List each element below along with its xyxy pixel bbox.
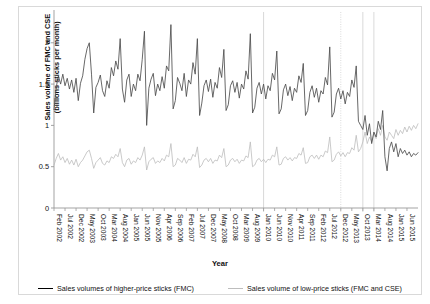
x-tick-label: Dec 2012 bbox=[342, 214, 349, 243]
x-tick-label: Oct 2003 bbox=[100, 214, 107, 241]
x-tick-label: Jul 2012 bbox=[331, 214, 338, 239]
legend-label-low-price: Sales volume of low-price sticks (FMC an… bbox=[247, 284, 402, 293]
x-tick-label: May 2013 bbox=[352, 214, 360, 243]
legend-item-higher-price[interactable]: Sales volumes of higher-price sticks (FM… bbox=[38, 284, 194, 293]
x-tick-label: Aug 2004 bbox=[121, 214, 129, 243]
x-tick-label: Mar 2014 bbox=[375, 214, 382, 242]
y-tick-label: 0.5 bbox=[39, 162, 49, 171]
legend-swatch-low-price bbox=[228, 288, 243, 289]
x-tick-label: Oct 2008 bbox=[232, 214, 239, 241]
x-tick-label: Jan 2010 bbox=[265, 214, 272, 241]
legend-label-higher-price: Sales volumes of higher-price sticks (FM… bbox=[57, 284, 194, 293]
x-tick-label: Aug 2014 bbox=[386, 214, 394, 243]
x-tick-label: May 2003 bbox=[88, 214, 96, 243]
plot-area: Sales volume of FMC and CSE (billions st… bbox=[18, 6, 422, 276]
x-tick-label: Nov 2005 bbox=[155, 214, 162, 243]
chart-svg: 00.511.52Feb 2002Jul 2002Dec 2002May 200… bbox=[18, 6, 422, 256]
x-tick-label: Aug 2009 bbox=[253, 214, 261, 243]
x-tick-label: Jun 2015 bbox=[409, 214, 416, 241]
x-tick-label: Jul 2002 bbox=[67, 214, 74, 239]
x-tick-label: Sep 2006 bbox=[176, 214, 184, 243]
x-tick-label: Nov 2010 bbox=[287, 214, 294, 243]
x-tick-label: Feb 2007 bbox=[188, 214, 195, 242]
x-axis-title: Year bbox=[18, 259, 422, 268]
x-tick-label: Apr 2011 bbox=[297, 214, 305, 241]
x-tick-label: Sep 2011 bbox=[308, 214, 316, 242]
series-line-low-price bbox=[54, 124, 418, 170]
y-tick-label: 1 bbox=[45, 121, 49, 130]
x-tick-label: Jul 2007 bbox=[199, 214, 206, 239]
x-tick-label: Feb 2012 bbox=[320, 214, 327, 242]
x-tick-label: Feb 2002 bbox=[56, 214, 63, 242]
x-tick-label: Mar 2004 bbox=[111, 214, 118, 242]
x-tick-label: Oct 2013 bbox=[364, 214, 371, 241]
x-tick-label: Jan 2005 bbox=[133, 214, 140, 241]
x-tick-label: Dec 2002 bbox=[78, 214, 85, 243]
chart-legend: Sales volumes of higher-price sticks (FM… bbox=[18, 280, 422, 296]
x-tick-label: Jun 2005 bbox=[144, 214, 151, 241]
series-line-higher-price bbox=[54, 25, 418, 171]
x-tick-label: May 2008 bbox=[220, 214, 228, 243]
legend-swatch-higher-price bbox=[38, 288, 53, 289]
x-tick-label: Apr 2006 bbox=[165, 214, 173, 241]
chart-figure: Sales volume of FMC and CSE (billions st… bbox=[0, 0, 430, 304]
y-tick-label: 2 bbox=[45, 38, 49, 47]
y-tick-label: 1.5 bbox=[39, 80, 49, 89]
y-tick-label: 0 bbox=[45, 204, 49, 213]
x-tick-label: Jan 2015 bbox=[398, 214, 405, 241]
x-tick-label: Mar 2009 bbox=[243, 214, 250, 242]
legend-item-low-price[interactable]: Sales volume of low-price sticks (FMC an… bbox=[228, 284, 402, 293]
x-tick-label: Jun 2010 bbox=[276, 214, 283, 241]
x-tick-label: Dec 2007 bbox=[210, 214, 217, 243]
